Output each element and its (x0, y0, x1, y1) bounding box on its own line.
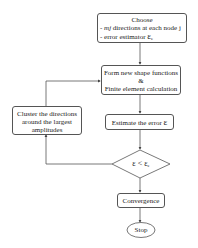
choose-directions-line: - mj directions at each node j (98, 24, 186, 32)
decision-condition: ε < εe (111, 159, 171, 168)
convergence-box: Convergence (117, 193, 165, 208)
arrow-decision-to-cluster (46, 135, 112, 164)
estimate-error-box: Estimate the error ε (105, 114, 174, 130)
arrow-cluster-to-form (46, 81, 100, 106)
choose-box: Choose - mj directions at each node j - … (97, 13, 187, 43)
choose-title: Choose (98, 16, 186, 24)
form-shape-functions-box: Form new shape functions & Finite elemen… (101, 65, 181, 95)
stop-label: Stop (127, 226, 155, 234)
cluster-directions-box: Cluster the directions around the larges… (12, 106, 82, 135)
choose-estimator-line: - error estimator εe (98, 32, 186, 43)
